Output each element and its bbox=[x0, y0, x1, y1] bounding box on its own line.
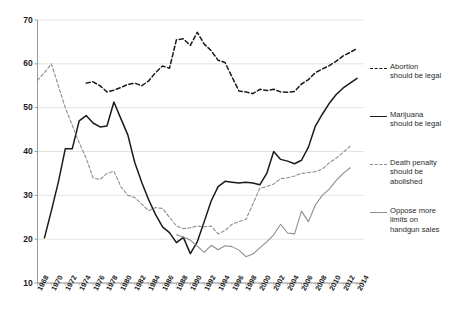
y-axis-label: 10 bbox=[11, 278, 33, 288]
y-axis-label: 20 bbox=[11, 234, 33, 244]
y-axis-label: 50 bbox=[11, 102, 33, 112]
legend-item-marijuana[interactable]: Marijuanashould be legal bbox=[370, 110, 456, 129]
legend-swatch-handgun-icon bbox=[370, 208, 387, 217]
legend-label-abortion: Abortionshould be legal bbox=[390, 62, 456, 81]
legend-label-line: limits on bbox=[390, 215, 418, 224]
legend-item-death-penalty[interactable]: Death penaltyshould beabolished bbox=[370, 158, 456, 186]
legend-label-line: Abortion bbox=[390, 62, 418, 71]
y-axis-label: 30 bbox=[11, 190, 33, 200]
series-line-abortion bbox=[86, 32, 357, 93]
legend-swatch-abortion-icon bbox=[370, 64, 387, 73]
legend-label-line: should be legal bbox=[390, 119, 441, 128]
legend-label-line: should be legal bbox=[390, 71, 441, 80]
legend-swatch-death-penalty-icon bbox=[370, 160, 387, 169]
opinion-trends-chart: 70605040302010 1968197019721974197619781… bbox=[0, 0, 456, 327]
legend-item-handgun[interactable]: Oppose morelimits onhandgun sales bbox=[370, 206, 456, 234]
y-axis-label: 40 bbox=[11, 146, 33, 156]
legend-label-handgun: Oppose morelimits onhandgun sales bbox=[390, 206, 456, 234]
legend-label-line: Marijuana bbox=[390, 110, 423, 119]
legend-label-line: Oppose more bbox=[390, 206, 436, 215]
legend-label-marijuana: Marijuanashould be legal bbox=[390, 110, 456, 129]
series-line-death-penalty bbox=[38, 64, 351, 234]
legend-label-line: should be bbox=[390, 167, 423, 176]
legend-label-death-penalty: Death penaltyshould beabolished bbox=[390, 158, 456, 186]
y-axis-label: 70 bbox=[11, 15, 33, 25]
series-line-handgun bbox=[176, 168, 350, 257]
series-line-marijuana bbox=[44, 78, 357, 253]
legend-label-line: handgun sales bbox=[390, 225, 439, 234]
legend-label-line: Death penalty bbox=[390, 158, 437, 167]
y-axis-label: 60 bbox=[11, 58, 33, 68]
legend-item-abortion[interactable]: Abortionshould be legal bbox=[370, 62, 456, 81]
legend-swatch-marijuana-icon bbox=[370, 112, 387, 121]
legend-label-line: abolished bbox=[390, 177, 423, 186]
